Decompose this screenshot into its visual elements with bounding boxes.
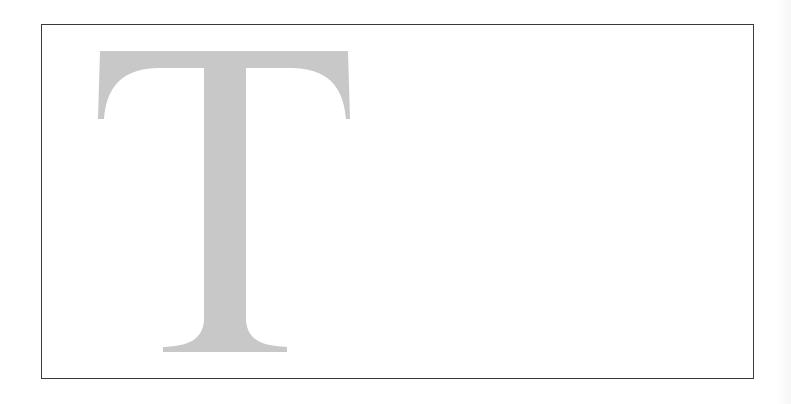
- page: T: [0, 0, 791, 404]
- letter-t-glyph: T: [98, 49, 352, 353]
- page-edge-shadow: [777, 0, 791, 404]
- letter-frame: T: [41, 24, 754, 379]
